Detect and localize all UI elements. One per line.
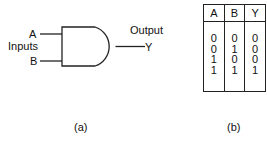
cell: 0 bbox=[231, 54, 237, 65]
truth-table: A 0 0 1 1 B 0 1 0 1 Y 0 0 0 1 bbox=[203, 4, 266, 92]
cell: 1 bbox=[231, 65, 237, 76]
column-y: Y 0 0 0 1 bbox=[245, 5, 265, 91]
input-a-label: A bbox=[29, 28, 36, 40]
header-b: B bbox=[225, 5, 245, 22]
cell: 0 bbox=[252, 54, 258, 65]
column-a: A 0 0 1 1 bbox=[204, 5, 225, 91]
and-gate-icon bbox=[62, 27, 109, 66]
column-b: B 0 1 0 1 bbox=[225, 5, 246, 91]
header-y: Y bbox=[245, 5, 265, 22]
caption-a: (a) bbox=[74, 121, 87, 133]
cell: 1 bbox=[211, 65, 217, 76]
cell: 0 bbox=[252, 33, 258, 44]
cell: 0 bbox=[211, 33, 217, 44]
caption-b: (b) bbox=[227, 121, 240, 133]
cell: 1 bbox=[211, 54, 217, 65]
input-b-label: B bbox=[30, 55, 37, 67]
output-label: Output bbox=[130, 24, 163, 36]
inputs-label: Inputs bbox=[8, 40, 38, 52]
cell: 0 bbox=[231, 33, 237, 44]
header-a: A bbox=[204, 5, 224, 22]
output-y-label: Y bbox=[145, 41, 152, 53]
cell: 1 bbox=[252, 65, 258, 76]
